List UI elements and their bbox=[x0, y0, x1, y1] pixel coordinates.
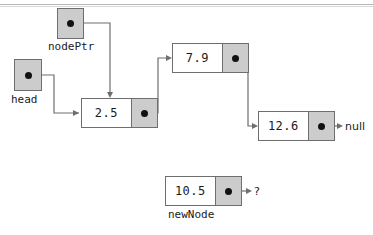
pointer-label-head: head bbox=[11, 93, 38, 106]
unknown-terminator-label: ? bbox=[254, 185, 260, 198]
node-label-newnode: newNode bbox=[168, 208, 214, 221]
arrowhead-newnode-to-unknown bbox=[246, 188, 252, 194]
null-terminator-label: null bbox=[345, 120, 365, 133]
header-rule bbox=[0, 4, 373, 5]
pointer-box-head[interactable] bbox=[14, 59, 42, 91]
node-value-2: 7.9 bbox=[173, 44, 222, 72]
node-pointer-dot-2 bbox=[232, 55, 239, 62]
node-pointer-cell-2[interactable] bbox=[222, 44, 248, 72]
list-node-1[interactable]: 2.5 bbox=[81, 98, 158, 128]
linked-list-diagram: nodePtr head 2.5 7.9 12.6 null 10.5 ? ne… bbox=[0, 0, 373, 235]
node-pointer-dot-newnode bbox=[225, 188, 232, 195]
node-value-3: 12.6 bbox=[259, 112, 308, 140]
pointer-box-nodeptr[interactable] bbox=[57, 8, 84, 39]
node-value-newnode: 10.5 bbox=[166, 177, 215, 205]
list-node-3[interactable]: 12.6 bbox=[258, 111, 335, 141]
arrowhead-head-to-node1 bbox=[73, 110, 79, 116]
pointer-dot-head bbox=[25, 72, 32, 79]
node-pointer-cell-1[interactable] bbox=[131, 99, 157, 127]
node-pointer-dot-1 bbox=[141, 110, 148, 117]
pointer-label-nodeptr: nodePtr bbox=[48, 40, 94, 53]
header-rule-shadow bbox=[0, 6, 373, 7]
node-pointer-cell-3[interactable] bbox=[308, 112, 334, 140]
node-pointer-dot-3 bbox=[318, 123, 325, 130]
node-value-1: 2.5 bbox=[82, 99, 131, 127]
list-node-2[interactable]: 7.9 bbox=[172, 43, 249, 73]
arrowhead-node3-to-null bbox=[337, 123, 343, 129]
list-node-newnode[interactable]: 10.5 bbox=[165, 176, 242, 206]
node-pointer-cell-newnode[interactable] bbox=[215, 177, 241, 205]
pointer-dot-nodeptr bbox=[67, 20, 74, 27]
